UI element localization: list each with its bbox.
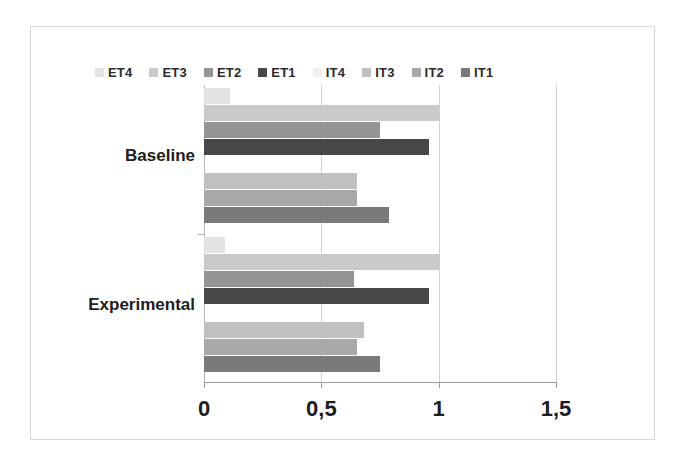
x-axis-tick bbox=[556, 382, 557, 388]
bar-it1-baseline bbox=[204, 207, 389, 223]
bar-it1-experimental bbox=[204, 356, 380, 372]
bar-it2-baseline bbox=[204, 190, 357, 206]
legend-swatch-icon bbox=[258, 68, 267, 77]
legend-swatch-icon bbox=[412, 68, 421, 77]
bar-it3-experimental bbox=[204, 322, 364, 338]
bar-et4-experimental bbox=[204, 237, 225, 253]
legend-swatch-icon bbox=[204, 68, 213, 77]
legend-item-label: ET2 bbox=[217, 65, 241, 80]
legend-item-label: ET1 bbox=[271, 65, 295, 80]
gridline bbox=[556, 85, 557, 382]
legend-item-it3[interactable]: IT3 bbox=[362, 65, 394, 80]
gridline bbox=[439, 85, 440, 382]
bar-et2-baseline bbox=[204, 122, 380, 138]
bar-et1-baseline bbox=[204, 139, 429, 155]
bar-et3-experimental bbox=[204, 254, 439, 270]
legend-swatch-icon bbox=[313, 68, 322, 77]
category-label: Baseline bbox=[125, 146, 195, 166]
x-tick-label: 1 bbox=[433, 396, 445, 422]
bar-et2-experimental bbox=[204, 271, 354, 287]
x-tick-label: 0,5 bbox=[306, 396, 337, 422]
bar-et4-baseline bbox=[204, 88, 230, 104]
x-axis-tick bbox=[321, 382, 322, 388]
x-tick-label: 0 bbox=[198, 396, 210, 422]
legend-item-label: IT2 bbox=[425, 65, 444, 80]
bar-it2-experimental bbox=[204, 339, 357, 355]
category-label: Experimental bbox=[88, 295, 195, 315]
bar-et1-experimental bbox=[204, 288, 429, 304]
legend-item-et1[interactable]: ET1 bbox=[258, 65, 295, 80]
x-axis-tick bbox=[204, 382, 205, 388]
bar-et3-baseline bbox=[204, 105, 439, 121]
legend-swatch-icon bbox=[362, 68, 371, 77]
legend-item-it4[interactable]: IT4 bbox=[313, 65, 345, 80]
legend-item-it2[interactable]: IT2 bbox=[412, 65, 444, 80]
legend-item-label: IT4 bbox=[326, 65, 345, 80]
category-axis-line bbox=[204, 382, 556, 383]
legend-item-et2[interactable]: ET2 bbox=[204, 65, 241, 80]
legend-swatch-icon bbox=[461, 68, 470, 77]
group-separator-tick bbox=[198, 234, 205, 235]
legend-item-label: IT3 bbox=[375, 65, 394, 80]
legend-item-it1[interactable]: IT1 bbox=[461, 65, 493, 80]
category-label-group: BaselineExperimental bbox=[40, 0, 195, 463]
x-axis-tick bbox=[439, 382, 440, 388]
chart-container: ET4ET3ET2ET1IT4IT3IT2IT1 00,511,5 Baseli… bbox=[0, 0, 686, 463]
legend-item-label: IT1 bbox=[474, 65, 493, 80]
x-tick-label: 1,5 bbox=[541, 396, 572, 422]
bar-it3-baseline bbox=[204, 173, 357, 189]
